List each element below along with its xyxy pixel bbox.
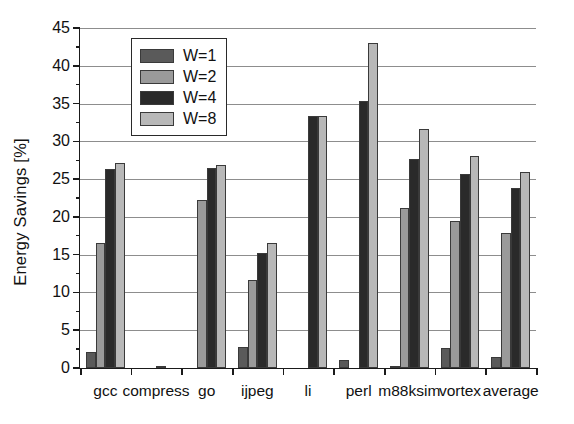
bar-ijpeg-W=4 [257,253,267,368]
y-tick-label: 25 [52,170,70,188]
bar-ijpeg-W=8 [267,243,277,368]
bar-compress-W=4 [156,366,166,368]
x-tick [283,368,285,375]
x-tick [485,368,487,375]
y-tick-minor [76,84,80,85]
y-tick-minor [76,273,80,274]
bar-m88ksim-W=2 [400,208,410,368]
x-tick [232,368,234,375]
legend-label: W=1 [183,47,216,65]
bar-go-W=4 [207,168,217,368]
bar-go-W=8 [216,165,226,368]
x-tick [536,368,538,375]
y-tick-major [73,292,80,294]
chart-legend: W=1W=2W=4W=8 [131,38,227,136]
bar-li-W=4 [308,116,318,368]
legend-swatch-W=2 [140,70,174,84]
bar-gcc-W=4 [105,169,115,368]
y-tick-minor [76,46,80,47]
y-tick-label: 15 [52,246,70,264]
bar-m88ksim-W=8 [419,129,429,369]
x-tick [80,368,82,375]
bar-perl-W=1 [339,360,349,368]
bar-m88ksim-W=4 [409,159,419,368]
x-tick-label-vortex: vortex [439,382,481,400]
bar-perl-W=4 [359,101,369,368]
bar-average-W=8 [520,172,530,368]
y-tick-major [73,367,80,369]
bar-gcc-W=2 [96,243,106,368]
y-tick-label: 0 [61,359,70,377]
y-tick-label: 20 [52,208,70,226]
legend-swatch-W=8 [140,112,174,126]
x-tick-label-gcc: gcc [93,382,117,400]
bar-average-W=4 [511,188,521,368]
y-tick-major [73,216,80,218]
y-tick-minor [76,311,80,312]
y-tick-minor [76,197,80,198]
bar-ijpeg-W=2 [248,280,258,368]
y-tick-minor [76,235,80,236]
legend-entry-W=2: W=2 [140,66,216,87]
bar-ijpeg-W=1 [238,347,248,368]
bar-average-W=2 [501,233,511,368]
x-tick-label-m88ksim: m88ksim [378,382,440,400]
x-tick-label-perl: perl [346,382,372,400]
y-tick-minor [76,122,80,123]
energy-savings-bar-chart: Energy Savings [%] 051015202530354045 gc… [0,0,574,424]
x-tick [131,368,133,375]
legend-entry-W=4: W=4 [140,87,216,108]
bar-average-W=1 [491,357,501,368]
y-tick-label: 30 [52,132,70,150]
y-tick-major [73,103,80,105]
y-tick-major [73,254,80,256]
y-tick-minor [76,348,80,349]
legend-entry-W=8: W=8 [140,108,216,129]
bar-vortex-W=8 [470,156,480,368]
bar-go-W=2 [197,200,207,368]
y-tick-major [73,329,80,331]
legend-swatch-W=4 [140,91,174,105]
x-tick [181,368,183,375]
y-axis-title: Energy Savings [%] [0,0,40,424]
legend-swatch-W=1 [140,49,174,63]
x-tick [384,368,386,375]
y-tick-major [73,178,80,180]
x-tick-label-average: average [483,382,539,400]
x-tick [435,368,437,375]
y-tick-label: 10 [52,283,70,301]
gridline [80,28,536,29]
x-tick [333,368,335,375]
y-tick-label: 5 [61,321,70,339]
bar-li-W=8 [318,116,328,368]
bar-vortex-W=2 [450,221,460,368]
bar-gcc-W=1 [86,352,96,368]
x-tick-label-ijpeg: ijpeg [241,382,274,400]
legend-entry-W=1: W=1 [140,45,216,66]
bar-vortex-W=1 [441,348,451,368]
legend-label: W=8 [183,110,216,128]
y-tick-label: 45 [52,19,70,37]
y-tick-major [73,65,80,67]
bar-gcc-W=8 [115,163,125,369]
bar-m88ksim-W=1 [390,366,400,368]
legend-label: W=4 [183,89,216,107]
y-tick-label: 40 [52,57,70,75]
bar-perl-W=8 [368,43,378,368]
y-tick-major [73,27,80,29]
y-tick-major [73,141,80,143]
x-tick-label-li: li [305,382,312,400]
bar-vortex-W=4 [460,174,470,368]
y-tick-label: 35 [52,95,70,113]
x-tick-label-go: go [198,382,215,400]
y-tick-minor [76,160,80,161]
x-tick-label-compress: compress [122,382,189,400]
legend-label: W=2 [183,68,216,86]
